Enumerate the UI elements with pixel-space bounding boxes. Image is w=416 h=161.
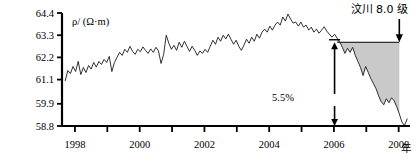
chart-figure: 64.463.362.261.159.958.8 199820002002200… <box>0 0 416 161</box>
decline-magnitude-label: 5.5% <box>272 92 294 103</box>
x-tick-label: 2000 <box>129 139 150 150</box>
x-tick-labels: 199820002002200420062008 <box>64 139 409 150</box>
x-tick-label: 2004 <box>259 139 281 150</box>
x-tick-label: 1998 <box>64 139 85 150</box>
x-axis-unit-label: 年 <box>401 142 411 154</box>
y-tick-label: 62.2 <box>36 52 54 63</box>
y-tick-label: 61.1 <box>36 74 54 85</box>
y-axis-title: ρ/ (Ω·m) <box>72 16 110 28</box>
y-axis <box>57 13 62 126</box>
y-tick-label: 63.3 <box>36 30 54 41</box>
earthquake-label: 汶川 8.0 级 <box>351 2 409 16</box>
x-axis <box>62 126 410 132</box>
x-tick-label: 2006 <box>323 139 344 150</box>
chart-svg: 64.463.362.261.159.958.8 199820002002200… <box>0 0 416 161</box>
y-tick-labels: 64.463.362.261.159.958.8 <box>36 8 55 132</box>
decline-magnitude-arrow <box>329 40 340 126</box>
y-tick-label: 64.4 <box>36 8 55 19</box>
x-tick-label: 2002 <box>194 139 215 150</box>
earthquake-arrow <box>396 19 403 42</box>
y-tick-label: 59.9 <box>36 98 54 109</box>
resistivity-curve <box>65 14 407 126</box>
y-tick-label: 58.8 <box>36 121 54 132</box>
